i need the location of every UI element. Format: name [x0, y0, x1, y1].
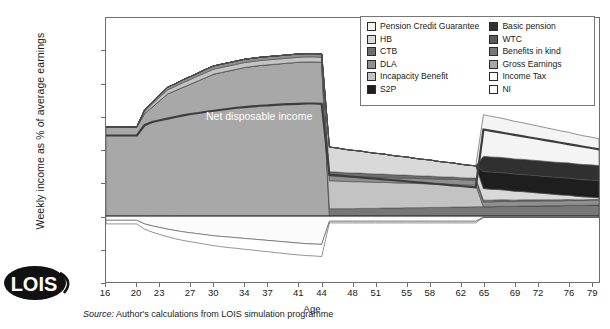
- legend-item[interactable]: Gross Earnings: [489, 59, 561, 70]
- x-tick-mark: [298, 283, 299, 287]
- legend-label: Income Tax: [502, 71, 546, 82]
- legend-label: Gross Earnings: [502, 59, 561, 70]
- x-tick-label: 44: [307, 288, 337, 298]
- legend-swatch-icon: [367, 35, 376, 44]
- legend-item[interactable]: Benefits in kind: [489, 46, 561, 57]
- legend-label: HB: [380, 34, 392, 45]
- x-tick-mark: [407, 283, 408, 287]
- x-tick-mark: [592, 283, 593, 287]
- legend-item[interactable]: WTC: [489, 34, 561, 45]
- legend-item[interactable]: NI: [489, 84, 561, 95]
- x-tick-mark: [105, 283, 106, 287]
- legend-label: Incapacity Benefit: [380, 71, 448, 82]
- x-tick-mark: [461, 283, 462, 287]
- x-tick-label: 23: [144, 288, 174, 298]
- legend-swatch-icon: [367, 72, 376, 81]
- legend-item[interactable]: Pension Credit Guarantee: [367, 21, 479, 32]
- area-band-income-tax: [106, 216, 599, 244]
- x-tick-mark: [430, 283, 431, 287]
- legend-label: S2P: [380, 84, 396, 95]
- x-tick-mark: [136, 283, 137, 287]
- legend-swatch-icon: [489, 60, 498, 69]
- legend-item[interactable]: HB: [367, 34, 479, 45]
- x-tick-label: 37: [252, 288, 282, 298]
- x-tick-mark: [267, 283, 268, 287]
- legend-swatch-icon: [489, 47, 498, 56]
- legend-item[interactable]: CTB: [367, 46, 479, 57]
- x-tick-label: 58: [415, 288, 445, 298]
- legend-swatch-icon: [367, 85, 376, 94]
- net-disposable-income-label: Net disposable income: [206, 110, 312, 122]
- legend-swatch-icon: [367, 22, 376, 31]
- source-text: Author's calculations from LOIS simulati…: [116, 309, 333, 319]
- x-tick-label: 51: [361, 288, 391, 298]
- y-axis-title: Weekly income as % of average earnings: [34, 31, 46, 231]
- x-tick-mark: [484, 283, 485, 287]
- legend-column-right: Basic pensionWTCBenefits in kindGross Ea…: [489, 21, 561, 95]
- x-tick-mark: [322, 283, 323, 287]
- legend-label: DLA: [380, 59, 397, 70]
- legend-label: Benefits in kind: [502, 46, 560, 57]
- x-tick-mark: [159, 283, 160, 287]
- x-tick-label: 72: [523, 288, 553, 298]
- legend-column-left: Pension Credit GuaranteeHBCTBDLAIncapaci…: [367, 21, 479, 95]
- legend-label: CTB: [380, 46, 397, 57]
- x-tick-mark: [190, 283, 191, 287]
- legend-swatch-icon: [489, 72, 498, 81]
- source-prefix: Source:: [83, 309, 114, 319]
- x-tick-label: 65: [469, 288, 499, 298]
- legend-swatch-icon: [367, 47, 376, 56]
- legend-label: Pension Credit Guarantee: [380, 21, 479, 32]
- legend-item[interactable]: DLA: [367, 59, 479, 70]
- legend-item[interactable]: Income Tax: [489, 71, 561, 82]
- legend-item[interactable]: Basic pension: [489, 21, 561, 32]
- x-tick-mark: [538, 283, 539, 287]
- x-tick-mark: [515, 283, 516, 287]
- legend-swatch-icon: [489, 85, 498, 94]
- x-tick-mark: [353, 283, 354, 287]
- lois-logo: LOIS: [4, 258, 84, 304]
- chart-figure: Weekly income as % of average earnings 6…: [0, 0, 610, 329]
- legend-swatch-icon: [489, 22, 498, 31]
- x-tick-label: 30: [198, 288, 228, 298]
- svg-text:LOIS: LOIS: [11, 273, 58, 295]
- legend-label: WTC: [502, 34, 522, 45]
- source-note: Source: Author's calculations from LOIS …: [83, 309, 333, 319]
- x-tick-mark: [376, 283, 377, 287]
- legend-item[interactable]: S2P: [367, 84, 479, 95]
- x-tick-mark: [244, 283, 245, 287]
- x-tick-label: 79: [577, 288, 607, 298]
- legend-swatch-icon: [489, 35, 498, 44]
- legend-swatch-icon: [367, 60, 376, 69]
- x-tick-label: 16: [90, 288, 120, 298]
- x-tick-mark: [213, 283, 214, 287]
- legend-label: Basic pension: [502, 21, 556, 32]
- chart-legend: Pension Credit GuaranteeHBCTBDLAIncapaci…: [360, 16, 595, 106]
- x-tick-mark: [569, 283, 570, 287]
- legend-label: NI: [502, 84, 511, 95]
- legend-item[interactable]: Incapacity Benefit: [367, 71, 479, 82]
